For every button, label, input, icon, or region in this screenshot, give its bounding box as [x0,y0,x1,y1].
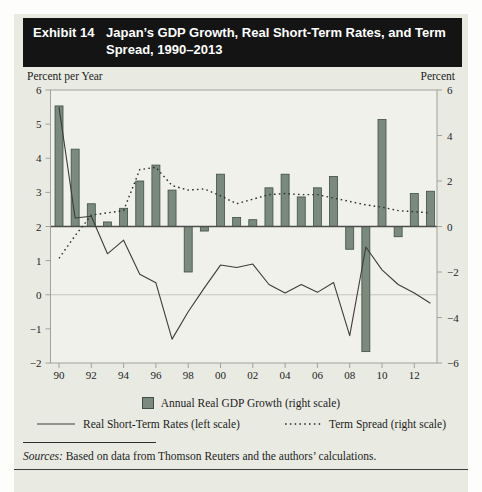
x-tick-label: 04 [280,369,292,381]
gdp-bar-2007 [330,176,338,226]
sources-divider [23,442,156,443]
gdp-bar-2000 [217,174,225,226]
gdp-bar-2001 [233,217,241,226]
right-tick-label: 6 [447,84,453,96]
gdp-bar-2012 [410,194,418,227]
gdp-bar-1996 [152,165,160,226]
left-tick-label: 3 [36,186,42,198]
gdp-bar-2005 [297,197,305,227]
gdp-bar-1993 [103,222,111,227]
x-tick-label: 96 [150,369,162,381]
left-tick-label: −1 [30,323,42,335]
right-tick-label: 0 [447,221,453,233]
rates-legend-label: Real Short-Term Rates (left scale) [83,418,240,430]
legend-item-spread: Term Spread (right scale) [284,418,446,430]
sources-label: Sources: [23,450,63,462]
legend-item-gdp: Annual Real GDP Growth (right scale) [142,397,340,409]
gdp-bar-1998 [184,227,192,273]
gdp-bar-2003 [265,188,273,227]
right-tick-label: 2 [447,175,453,187]
gdp-bar-swatch [142,397,154,409]
x-tick-label: 10 [377,369,389,381]
x-tick-label: 02 [247,369,258,381]
gdp-bar-1995 [136,181,144,227]
scanned-exhibit-page: Exhibit 14 Japan’s GDP Growth, Real Shor… [0,0,482,492]
legend-item-rates: Real Short-Term Rates (left scale) [36,418,240,430]
gdp-bar-2004 [281,174,289,226]
x-tick-label: 94 [118,369,130,381]
gdp-legend-label: Annual Real GDP Growth (right scale) [161,397,340,409]
gdp-bar-2002 [249,220,257,227]
solid-line-swatch [36,420,76,428]
gdp-bar-2013 [426,191,434,226]
left-tick-label: 5 [36,118,42,130]
left-tick-label: 0 [36,289,42,301]
x-tick-label: 90 [54,369,66,381]
left-tick-label: 2 [36,221,42,233]
sources-text: Based on data from Thomson Reuters and t… [63,450,377,462]
x-tick-label: 98 [183,369,195,381]
right-tick-label: −2 [447,266,459,278]
right-tick-label: 4 [447,130,453,142]
exhibit-bottom-rule [14,469,468,470]
gdp-bar-2006 [313,188,321,227]
right-tick-label: −4 [447,312,459,324]
left-tick-label: 6 [36,84,42,96]
right-tick-label: −6 [447,357,459,369]
spread-legend-label: Term Spread (right scale) [329,418,446,430]
left-tick-label: 4 [36,152,42,164]
dotted-line-swatch [284,420,322,428]
x-tick-label: 08 [344,369,356,381]
legend-row-2: Real Short-Term Rates (left scale) Term … [14,418,468,430]
x-tick-label: 92 [86,369,97,381]
sources-note: Sources: Based on data from Thomson Reut… [23,450,459,462]
x-tick-label: 06 [312,369,324,381]
gdp-rates-spread-chart: 6543210−1−26420−2−4−69092949698000204060… [0,0,482,392]
gdp-bar-2011 [394,227,402,237]
left-tick-label: 1 [36,255,42,267]
exhibit-card: Exhibit 14 Japan’s GDP Growth, Real Shor… [14,14,468,492]
left-tick-label: −2 [30,357,42,369]
x-tick-label: 12 [409,369,420,381]
legend-row-1: Annual Real GDP Growth (right scale) [14,397,468,409]
gdp-bar-1999 [200,227,208,232]
gdp-bar-2010 [378,120,386,227]
x-tick-label: 00 [215,369,227,381]
gdp-bar-2008 [346,227,354,250]
gdp-bar-2009 [362,227,370,352]
gdp-bar-1997 [168,190,176,226]
